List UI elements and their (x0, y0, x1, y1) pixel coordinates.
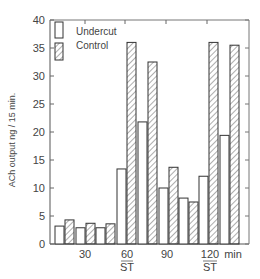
legend-label-undercut: Undercut (76, 26, 117, 37)
y-tick-label: 5 (39, 210, 45, 222)
bar-undercut (220, 135, 229, 244)
bar-undercut (179, 198, 188, 244)
x-tick-60-sub: ST (120, 261, 134, 273)
legend-swatch-control (55, 43, 63, 60)
x-tick-60: 60 (121, 248, 133, 260)
y-tick-label: 10 (33, 182, 45, 194)
bar-control (189, 202, 198, 244)
y-tick-label: 0 (39, 238, 45, 250)
y-tick-label: 25 (33, 98, 45, 110)
legend-swatch-undercut (55, 22, 63, 38)
bar-control (65, 220, 74, 244)
bar-undercut (117, 169, 126, 244)
y-tick-label: 20 (33, 126, 45, 138)
x-axis-labels: 30 60 ST 90 120 ST min (79, 248, 242, 273)
x-tick-90: 90 (161, 248, 173, 260)
bar-undercut (159, 188, 168, 244)
top-ticks (85, 20, 207, 24)
x-tick-120-sub: ST (203, 261, 217, 273)
bar-chart: 0510152025303540 ACh output ng / 15 min.… (0, 0, 260, 279)
y-tick-label: 30 (33, 70, 45, 82)
x-unit-label: min (224, 248, 242, 260)
bar-undercut (76, 228, 85, 244)
bar-control (169, 167, 178, 244)
y-tick-label: 15 (33, 154, 45, 166)
bar-control (106, 224, 115, 244)
bars (55, 42, 239, 244)
bar-undercut (96, 228, 105, 244)
bar-control (86, 223, 95, 244)
y-axis-label: ACh output ng / 15 min. (7, 93, 17, 188)
legend: Undercut Control (55, 22, 117, 60)
bar-undercut (55, 226, 64, 244)
bar-control (148, 62, 157, 244)
y-tick-label: 35 (33, 42, 45, 54)
bar-undercut (138, 122, 147, 244)
bar-control (127, 42, 136, 244)
legend-label-control: Control (76, 40, 108, 51)
x-tick-120: 120 (201, 248, 219, 260)
bar-undercut (199, 176, 208, 244)
bar-control (209, 42, 218, 244)
bar-control (230, 45, 239, 244)
x-tick-30: 30 (79, 248, 91, 260)
y-tick-label: 40 (33, 14, 45, 26)
